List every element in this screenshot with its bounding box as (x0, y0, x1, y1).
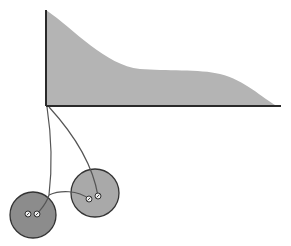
diagram-canvas (0, 0, 291, 246)
buttons-group (10, 169, 119, 238)
left-button (10, 192, 56, 238)
diagram-svg (0, 0, 291, 246)
filled-curve (46, 10, 277, 106)
